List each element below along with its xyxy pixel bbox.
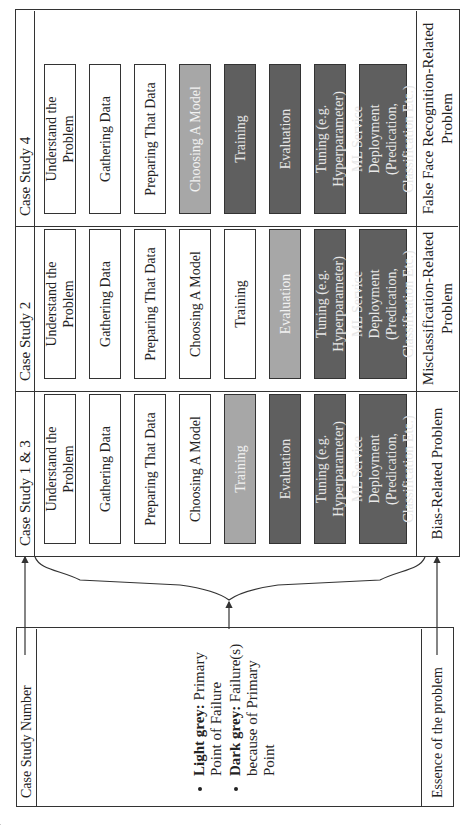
legend-header: Case Study Number	[19, 685, 35, 798]
step-training: Training	[224, 394, 256, 544]
step-tuning: Tuning (e.g. Hyperparameter)	[314, 64, 346, 214]
legend-item-light: Light grey: Primary Point of Failure	[191, 634, 225, 776]
step-tuning: Tuning (e.g. Hyperparameter)	[314, 229, 346, 379]
step-understand: Understand the Problem	[44, 229, 76, 379]
step-training: Training	[224, 229, 256, 379]
step-gathering: Gathering Data	[89, 394, 121, 544]
step-deployment: ML Service Deployment (Predication, Clas…	[359, 64, 407, 214]
column-case-study-4: Case Study 4 Understand the Problem Gath…	[16, 11, 458, 226]
step-preparing: Preparing That Data	[134, 64, 166, 214]
step-gathering: Gathering Data	[89, 229, 121, 379]
step-evaluation: Evaluation	[269, 64, 301, 214]
step-choosing: Choosing A Model	[179, 64, 211, 214]
legend-item-dark: Dark grey: Failure(s) because of Primary…	[227, 634, 278, 776]
step-training: Training	[224, 64, 256, 214]
case-study-grid: Case Study 1 & 3 Understand the Problem …	[15, 9, 460, 557]
column-essence: Misclassification-Related Problem	[416, 226, 458, 391]
legend-header-box: Case Study Number	[17, 629, 37, 806]
step-choosing: Choosing A Model	[179, 229, 211, 379]
diagram-canvas: Case Study Number Light grey: Primary Po…	[0, 0, 472, 825]
column-essence: False Face Recognition-Related Problem	[416, 11, 458, 226]
step-choosing: Choosing A Model	[179, 394, 211, 544]
column-header: Case Study 1 & 3	[16, 391, 35, 556]
legend-footer: Essence of the problem	[430, 667, 446, 798]
legend-items: Light grey: Primary Point of Failure Dar…	[45, 634, 425, 794]
legend-footer-box: Essence of the problem	[421, 629, 453, 806]
column-case-study-1-3: Case Study 1 & 3 Understand the Problem …	[16, 391, 458, 556]
legend-box: Case Study Number Light grey: Primary Po…	[16, 627, 454, 807]
step-understand: Understand the Problem	[44, 64, 76, 214]
column-header: Case Study 2	[16, 226, 35, 391]
step-preparing: Preparing That Data	[134, 229, 166, 379]
step-evaluation: Evaluation	[269, 229, 301, 379]
step-deployment: ML Service Deployment (Predication, Clas…	[359, 229, 407, 379]
column-header: Case Study 4	[16, 11, 35, 226]
step-preparing: Preparing That Data	[134, 394, 166, 544]
step-evaluation: Evaluation	[269, 394, 301, 544]
step-tuning: Tuning (e.g. Hyperparameter)	[314, 394, 346, 544]
step-deployment: ML Service Deployment (Predication, Clas…	[359, 394, 407, 544]
step-gathering: Gathering Data	[89, 64, 121, 214]
column-essence: Bias-Related Problem	[416, 391, 458, 556]
column-case-study-2: Case Study 2 Understand the Problem Gath…	[16, 226, 458, 391]
step-understand: Understand the Problem	[44, 394, 76, 544]
